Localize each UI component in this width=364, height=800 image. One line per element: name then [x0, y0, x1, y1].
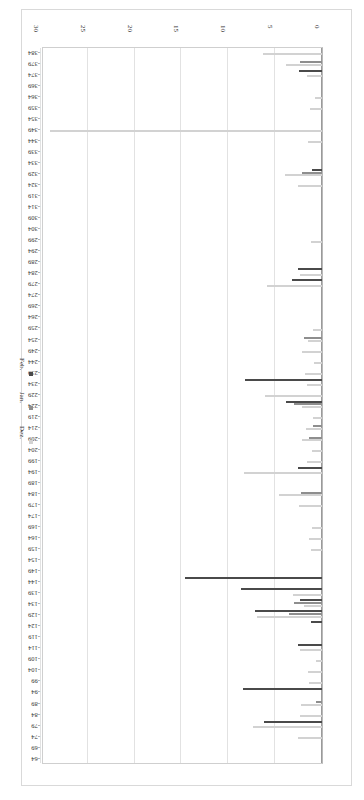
bar-feb [311, 621, 322, 623]
bar-group [43, 223, 322, 234]
bar-group [43, 410, 322, 421]
gridline [40, 48, 41, 763]
bar-dez [267, 285, 322, 287]
bar-group [43, 278, 322, 289]
category-tick-label: -309 [28, 215, 40, 221]
bar-group [43, 68, 322, 79]
category-tick-label: -134 [28, 601, 40, 607]
bar-group [43, 123, 322, 134]
bar-dez [315, 97, 322, 99]
category-tick-label: -199 [28, 457, 40, 463]
bar-group [43, 300, 322, 311]
bar-dez [265, 395, 322, 397]
bar-group [43, 134, 322, 145]
bar-group [43, 200, 322, 211]
category-tick-label: -359 [28, 104, 40, 110]
bar-jan [304, 337, 322, 339]
category-tick-label: -314 [28, 204, 40, 210]
bar-group [43, 653, 322, 664]
bar-dez [308, 340, 322, 342]
bar-feb [292, 280, 322, 282]
bar-jan [301, 492, 322, 494]
legend-swatch-jan [29, 406, 33, 410]
bar-group [43, 697, 322, 708]
bar-dez [302, 439, 322, 441]
bar-feb [286, 401, 322, 403]
bar-group [43, 57, 322, 68]
bar-group [43, 289, 322, 300]
bar-group [43, 609, 322, 620]
bar-dez [293, 594, 322, 596]
category-tick-label: -99 [31, 678, 40, 684]
value-tick-label: 30 [32, 25, 39, 32]
bar-dez [316, 660, 322, 662]
bar-dez [307, 461, 322, 463]
bar-group [43, 719, 322, 730]
bar-dez [313, 417, 322, 419]
bar-dez [312, 450, 322, 452]
bar-jan [300, 61, 322, 63]
bar-dez [279, 494, 322, 496]
bar-dez [300, 649, 322, 651]
category-tick-label: -339 [28, 149, 40, 155]
category-tick-label: -109 [28, 656, 40, 662]
bar-group [43, 333, 322, 344]
bar-group [43, 46, 322, 57]
bar-group [43, 454, 322, 465]
bar-dez [304, 605, 322, 607]
bar-group [43, 377, 322, 388]
category-tick-label: -259 [28, 325, 40, 331]
bar-dez [309, 682, 322, 684]
category-tick-label: -79 [31, 722, 40, 728]
legend-label-jan: Jan. [18, 392, 26, 403]
value-tick-label: 25 [79, 25, 86, 32]
bar-group [43, 520, 322, 531]
category-tick-label: -234 [28, 380, 40, 386]
category-tick-label: -249 [28, 347, 40, 353]
category-tick-label: -344 [28, 138, 40, 144]
category-tick-label: -369 [28, 82, 40, 88]
bar-group [43, 642, 322, 653]
bar-group [43, 730, 322, 741]
bar-feb [298, 268, 322, 270]
category-tick-label: -219 [28, 413, 40, 419]
bar-group [43, 421, 322, 432]
bar-dez [253, 726, 322, 728]
category-tick-label: -324 [28, 182, 40, 188]
bar-group [43, 509, 322, 520]
bar-dez [285, 174, 322, 176]
bar-feb [256, 610, 323, 612]
bar-dez [257, 616, 322, 618]
bar-group [43, 256, 322, 267]
bar-group [43, 388, 322, 399]
rotated-chart-container: -64-69-74-79-84-89-94-99-104-109-114-119… [21, 9, 352, 786]
bar-dez [300, 274, 322, 276]
bar-group [43, 587, 322, 598]
bar-dez [298, 737, 322, 739]
category-tick-label: -74 [31, 733, 40, 739]
category-tick-label: -244 [28, 358, 40, 364]
bar-group [43, 156, 322, 167]
bar-dez [301, 704, 322, 706]
bar-group [43, 741, 322, 752]
legend-label-feb: Feb. [18, 358, 26, 370]
bar-group [43, 675, 322, 686]
legend-swatch-dez [29, 440, 33, 444]
category-tick-label: -89 [31, 700, 40, 706]
category-tick-label: -269 [28, 303, 40, 309]
legend-label-dez: Dez. [18, 426, 26, 439]
category-tick-label: -159 [28, 546, 40, 552]
category-tick-label: -154 [28, 557, 40, 563]
category-tick-label: -164 [28, 535, 40, 541]
bar-dez [314, 362, 322, 364]
bar-group [43, 234, 322, 245]
category-tick-label: -329 [28, 171, 40, 177]
bar-group [43, 145, 322, 156]
bar-group [43, 553, 322, 564]
bar-group [43, 465, 322, 476]
bar-dez [244, 472, 322, 474]
bar-group [43, 245, 322, 256]
bar-group [43, 708, 322, 719]
bar-dez [302, 351, 322, 353]
bar-feb [298, 467, 322, 469]
